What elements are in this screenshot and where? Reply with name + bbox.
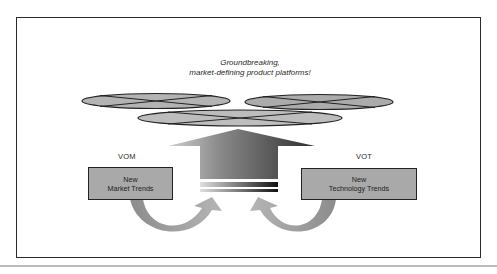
technology-box-line-2: Technology Trends bbox=[329, 184, 389, 193]
market-box-line-1: New bbox=[108, 175, 154, 184]
market-box-line-2: Market Trends bbox=[108, 184, 154, 193]
new-technology-trends-box: New Technology Trends bbox=[301, 168, 417, 200]
platform-left-ellipse bbox=[82, 94, 230, 109]
platform-center-ellipse bbox=[138, 110, 342, 126]
new-market-trends-box: New Market Trends bbox=[88, 167, 173, 200]
main-upward-arrow-icon bbox=[168, 129, 315, 192]
vot-label: VOT bbox=[356, 152, 372, 161]
technology-box-line-1: New bbox=[329, 175, 389, 184]
vom-label: VOM bbox=[118, 152, 136, 161]
platform-right-ellipse bbox=[245, 95, 393, 110]
diagram-graphics bbox=[0, 0, 497, 274]
left-curved-arrow-icon bbox=[130, 197, 222, 232]
right-curved-arrow-icon bbox=[250, 197, 336, 232]
